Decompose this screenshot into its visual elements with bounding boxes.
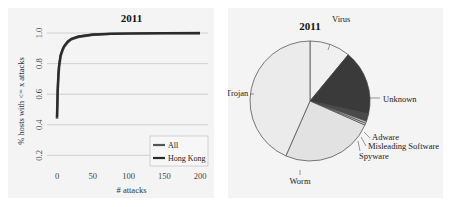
series-line-all (57, 33, 200, 119)
chart-title: 2011 (121, 12, 142, 24)
pie-label-trojan: Trojan (228, 88, 249, 98)
legend-label: All (168, 141, 179, 150)
x-axis-label: # attacks (117, 185, 147, 195)
chart-title: 2011 (299, 20, 320, 32)
series-line-hong-kong (57, 33, 200, 117)
x-tick-label: 100 (122, 171, 135, 181)
pie-label-misleading-software: Misleading Software (368, 141, 439, 151)
y-tick-label: 0.8 (34, 58, 44, 69)
y-axis-label: % hosts with <= x attacks (16, 57, 26, 145)
label-leader-line (358, 141, 360, 151)
label-leader-line (364, 132, 370, 138)
x-tick-label: 150 (158, 171, 171, 181)
y-tick-label: 1.0 (34, 28, 44, 39)
y-tick-label: 0.6 (34, 89, 44, 100)
pie-label-spyware: Spyware (359, 151, 389, 161)
pie-label-worm: Worm (289, 176, 310, 186)
pie-label-unknown: Unknown (383, 94, 417, 104)
cdf-chart-panel: 20110.20.40.60.81.0050100150200# attacks… (8, 8, 214, 198)
pie-chart-panel: 2011VirusUnknownAdwareMisleading Softwar… (228, 8, 443, 198)
cdf-chart: 20110.20.40.60.81.0050100150200# attacks… (8, 8, 214, 198)
pie-chart: 2011VirusUnknownAdwareMisleading Softwar… (228, 8, 443, 198)
y-tick-label: 0.4 (34, 119, 44, 130)
y-tick-label: 0.2 (34, 150, 44, 161)
x-tick-label: 200 (194, 171, 207, 181)
legend-label: Hong Kong (168, 154, 206, 163)
x-tick-label: 0 (55, 171, 59, 181)
label-leader-line (361, 137, 366, 146)
x-tick-label: 50 (89, 171, 98, 181)
pie-label-virus: Virus (332, 14, 350, 24)
legend: AllHong Kong (150, 136, 208, 166)
